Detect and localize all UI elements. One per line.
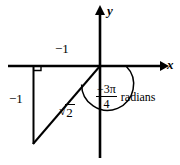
y-axis-label: y bbox=[107, 4, 113, 17]
angle-denominator: 4 bbox=[103, 97, 109, 110]
angle-measure-label: −3π 4 radians bbox=[96, 83, 155, 110]
hypotenuse-length-label: √ 2 bbox=[59, 104, 75, 119]
angle-fraction: −3π 4 bbox=[96, 83, 117, 110]
x-axis bbox=[8, 61, 169, 71]
radicand-value: 2 bbox=[65, 104, 75, 119]
y-tick-label: −1 bbox=[9, 92, 23, 105]
x-tick-label: −1 bbox=[55, 42, 69, 55]
angle-diagram-figure: −1 −1 y x √ 2 −3π 4 radians bbox=[0, 0, 180, 165]
x-axis-label: x bbox=[167, 58, 174, 71]
angle-numerator: −3π bbox=[96, 83, 117, 97]
angle-unit-label: radians bbox=[121, 91, 156, 103]
